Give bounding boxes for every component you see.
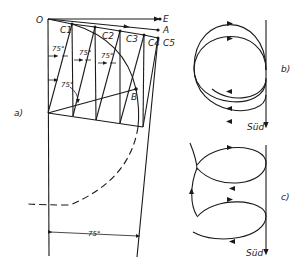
label-e: E	[163, 14, 169, 24]
label-panel-a: a)	[14, 108, 23, 118]
label-c1: C1	[60, 25, 72, 35]
label-panel-c: c)	[281, 192, 289, 202]
angle-label-2: 75°	[79, 49, 91, 57]
label-sud-c: Süd	[246, 248, 263, 258]
label-o: O	[36, 15, 43, 25]
label-a: A	[162, 25, 169, 35]
label-c3: C3	[126, 34, 138, 44]
angle-label-4: 75°	[61, 81, 73, 89]
arrow-a-icon	[124, 24, 131, 28]
label-panel-b: b)	[281, 64, 290, 74]
dimension-label: 75°	[88, 230, 100, 238]
diagram: O E A B C1 C2 C3 C4 C5 75° 75° 75° 75° a…	[0, 0, 304, 269]
panel-c	[189, 143, 266, 252]
angle-label-1: 75°	[52, 45, 64, 53]
panel-a	[28, 17, 162, 258]
label-c2: C2	[102, 31, 114, 41]
label-sud-b: Süd	[247, 122, 264, 132]
angle-label-3: 75°	[101, 52, 113, 60]
label-c4: C4	[148, 38, 160, 48]
label-b: B	[131, 92, 137, 102]
panel-b	[194, 20, 266, 125]
label-c5: C5	[163, 38, 175, 48]
